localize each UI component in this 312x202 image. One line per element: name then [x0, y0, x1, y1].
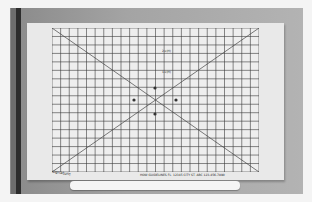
grid-sheet: 2×(H) 1×(H): [52, 28, 259, 172]
marker-dot: [153, 112, 156, 115]
annotation-2x: 2×(H): [162, 49, 171, 53]
annotation-1x: 1×(H): [162, 70, 171, 74]
stand-pole: [16, 8, 21, 194]
footer-text: HOW GUIDELINES FL. 12345 CITY ST. ABC 12…: [140, 173, 225, 177]
grid-chart: 2×(H) 1×(H): [52, 28, 259, 172]
marker-dot: [153, 86, 156, 89]
marker-dot: [174, 98, 177, 101]
marker-dot: [132, 98, 135, 101]
label-strip: [70, 181, 240, 190]
